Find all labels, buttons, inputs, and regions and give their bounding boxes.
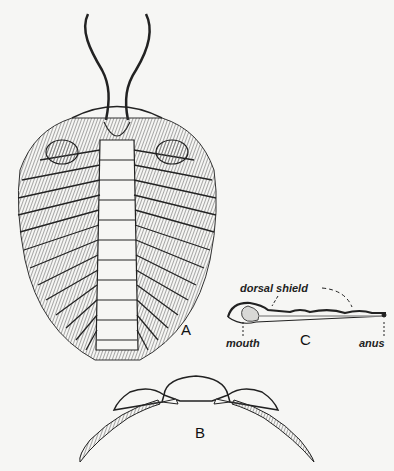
- cross-section: [80, 376, 314, 462]
- antenna-right: [126, 14, 150, 120]
- annotation-dorsal-shield: dorsal shield: [240, 282, 308, 294]
- panel-label-b: B: [195, 424, 205, 441]
- panel-label-a: A: [181, 321, 191, 338]
- annotation-anus: anus: [359, 337, 385, 349]
- antenna-left: [85, 14, 109, 120]
- axial-lobe: [164, 376, 228, 401]
- panel-label-c: C: [300, 331, 311, 348]
- annotation-mouth: mouth: [226, 337, 260, 349]
- trilobite-figure: [0, 0, 394, 471]
- trilobite-ventral-view: [18, 14, 216, 360]
- longitudinal-section: [228, 288, 386, 336]
